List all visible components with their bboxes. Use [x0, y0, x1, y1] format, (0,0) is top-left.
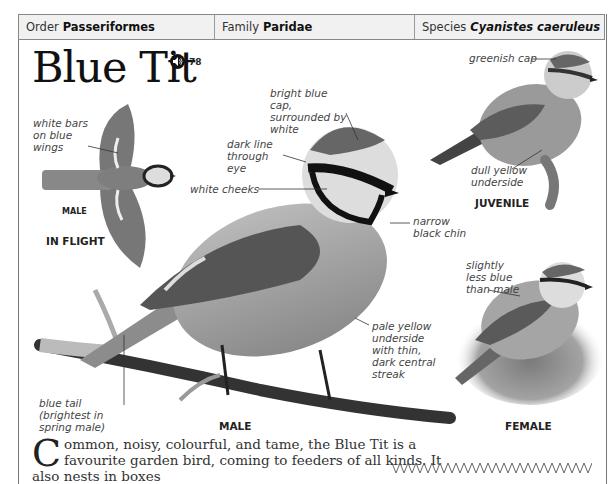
label-juvenile-cap: greenish cap [469, 52, 539, 64]
caption-flight-male: MALE [62, 207, 87, 216]
caption-juvenile: JUVENILE [475, 197, 529, 209]
label-juvenile-underside: dull yellow underside [471, 164, 527, 188]
body-paragraph: C ommon, noisy, colourful, and tame, the… [32, 436, 452, 484]
body-text: ommon, noisy, colourful, and tame, the B… [32, 436, 442, 484]
zigzag-divider [392, 462, 592, 474]
label-cap: bright blue cap, surrounded by white [270, 87, 350, 135]
label-underside: pale yellow underside with thin, dark ce… [372, 320, 444, 380]
label-tail: blue tail (brightest in spring male) [39, 397, 123, 433]
caption-in-flight: IN FLIGHT [46, 235, 105, 247]
caption-female: FEMALE [505, 420, 552, 432]
label-female: slightly less blue than male [466, 259, 520, 295]
label-cheeks: white cheeks [190, 183, 260, 195]
drop-cap: C [32, 438, 61, 468]
label-chin: narrow black chin [413, 215, 468, 239]
label-eye-line: dark line through eye [227, 138, 289, 174]
label-wing-bars: white bars on blue wings [33, 117, 97, 153]
caption-male: MALE [219, 420, 251, 432]
